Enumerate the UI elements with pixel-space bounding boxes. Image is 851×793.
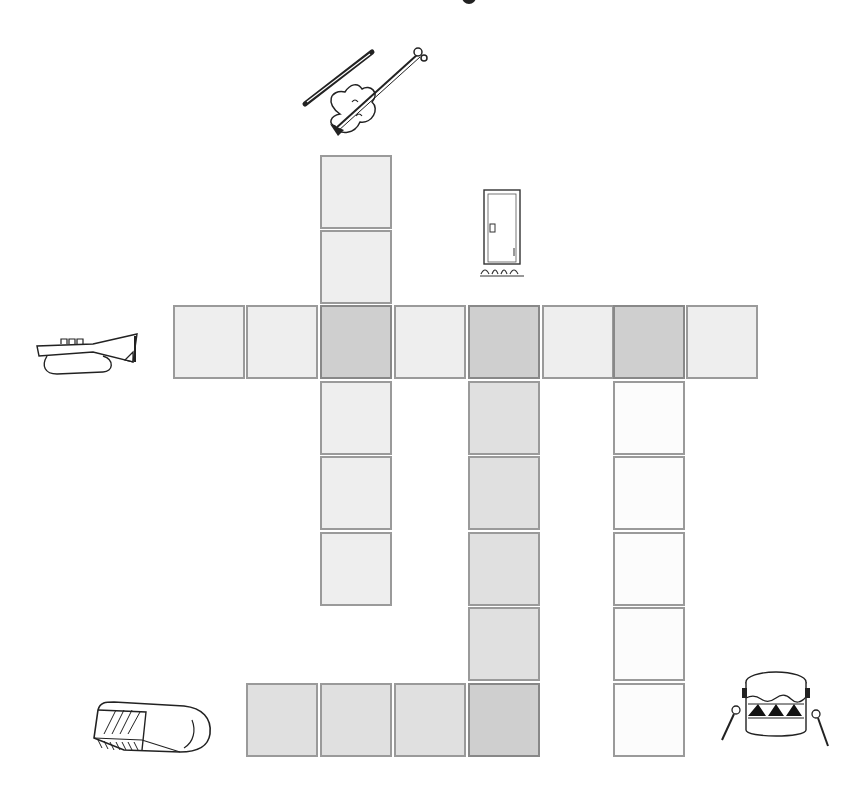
crossword-cell[interactable] bbox=[246, 683, 318, 757]
crossword-cell[interactable] bbox=[246, 305, 318, 379]
crossword-cell[interactable] bbox=[320, 155, 392, 229]
crossword-cell[interactable] bbox=[320, 381, 392, 455]
crossword-cell[interactable] bbox=[320, 305, 392, 379]
crossword-cell[interactable] bbox=[394, 305, 466, 379]
crossword-cell[interactable] bbox=[320, 532, 392, 606]
crossword-cell[interactable] bbox=[320, 683, 392, 757]
crossword-cell[interactable] bbox=[686, 305, 758, 379]
crossword-cell[interactable] bbox=[613, 683, 685, 757]
door-icon bbox=[478, 186, 528, 281]
crossword-cell[interactable] bbox=[613, 305, 685, 379]
crossword-cell[interactable] bbox=[613, 607, 685, 681]
crossword-cell[interactable] bbox=[542, 305, 614, 379]
crossword-cell[interactable] bbox=[613, 456, 685, 530]
crossword-cell[interactable] bbox=[613, 381, 685, 455]
crossword-cell[interactable] bbox=[468, 305, 540, 379]
crossword-cell[interactable] bbox=[468, 532, 540, 606]
drum-icon bbox=[716, 668, 836, 753]
crossword-cell[interactable] bbox=[468, 456, 540, 530]
trumpet-icon bbox=[33, 332, 143, 377]
crossword-cell[interactable] bbox=[320, 456, 392, 530]
crossword-cell[interactable] bbox=[468, 381, 540, 455]
crossword-cell[interactable] bbox=[468, 683, 540, 757]
crossword-cell[interactable] bbox=[320, 230, 392, 304]
eraser-icon bbox=[84, 690, 219, 765]
violin-icon bbox=[300, 44, 430, 139]
crossword-cell[interactable] bbox=[613, 532, 685, 606]
crossword-cell[interactable] bbox=[468, 607, 540, 681]
crossword-cell[interactable] bbox=[394, 683, 466, 757]
crossword-cell[interactable] bbox=[173, 305, 245, 379]
